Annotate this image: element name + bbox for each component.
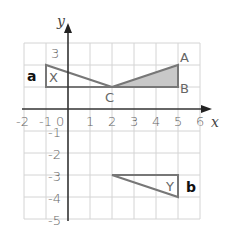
y-tick: -3	[48, 169, 61, 184]
label-y: Y	[165, 179, 174, 194]
x-axis-label: x	[211, 114, 219, 130]
tag-b: b	[186, 179, 196, 195]
x-tick: -2	[16, 114, 29, 129]
x-tick: 2	[108, 114, 116, 129]
y-axis-arrow-icon	[64, 23, 72, 33]
coordinate-grid-diagram: y x -2 -1 0 1 2 3 4 5 6 3 -1 -2 -3 -4 -5…	[0, 0, 226, 230]
x-tick: 3	[130, 114, 138, 129]
y-tick: -2	[48, 147, 61, 162]
point-a: A	[180, 50, 189, 65]
point-c: C	[105, 90, 114, 105]
tag-a: a	[27, 68, 36, 84]
y-tick: 3	[51, 46, 59, 61]
x-tick: 1	[86, 114, 94, 129]
y-axis-label: y	[56, 13, 66, 29]
x-tick: 4	[152, 114, 160, 129]
x-tick: 6	[196, 114, 204, 129]
y-tick: -1	[48, 125, 61, 140]
x-tick: 5	[174, 114, 182, 129]
label-x: X	[49, 70, 58, 85]
shaded-triangle	[112, 65, 178, 87]
y-tick: -5	[48, 213, 61, 228]
point-b: B	[180, 81, 189, 96]
x-axis-arrow-icon	[201, 105, 212, 113]
y-tick: -4	[48, 191, 61, 206]
